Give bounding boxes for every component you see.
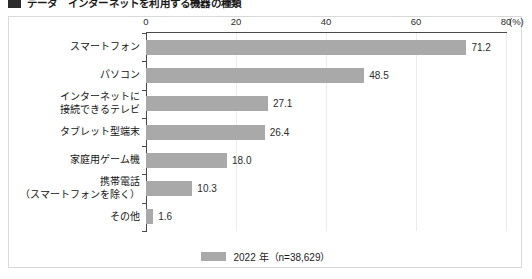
x-axis-tick-labels: 020406080(%) bbox=[0, 0, 532, 16]
category-label-6: その他 bbox=[0, 211, 140, 224]
x-tick-label-0: 0 bbox=[143, 16, 148, 27]
chart-legend: 2022 年（n=38,629） bbox=[0, 249, 532, 264]
category-label-line: 家庭用ゲーム機 bbox=[0, 154, 140, 167]
category-label-line: 携帯電話 bbox=[0, 176, 140, 189]
x-tick-label-60: 60 bbox=[411, 16, 422, 27]
category-label-2: インターネットに接続できるテレビ bbox=[0, 91, 140, 116]
category-label-4: 家庭用ゲーム機 bbox=[0, 154, 140, 167]
category-label-0: スマートフォン bbox=[0, 41, 140, 54]
y-axis-category-labels: スマートフォンパソコンインターネットに接続できるテレビタブレット型端末家庭用ゲー… bbox=[0, 33, 532, 231]
category-label-1: パソコン bbox=[0, 69, 140, 82]
category-label-line: （スマートフォンを除く） bbox=[0, 189, 140, 202]
category-label-line: タブレット型端末 bbox=[0, 126, 140, 139]
legend-swatch-2022 bbox=[201, 252, 226, 261]
x-tick-label-40: 40 bbox=[321, 16, 332, 27]
category-label-line: インターネットに bbox=[0, 91, 140, 104]
category-label-line: スマートフォン bbox=[0, 41, 140, 54]
category-label-3: タブレット型端末 bbox=[0, 126, 140, 139]
category-label-line: その他 bbox=[0, 211, 140, 224]
category-label-line: パソコン bbox=[0, 69, 140, 82]
legend-label-2022: 2022 年（n=38,629） bbox=[233, 249, 330, 264]
x-axis-unit-label: (%) bbox=[509, 16, 524, 27]
x-tick-label-20: 20 bbox=[231, 16, 242, 27]
category-label-line: 接続できるテレビ bbox=[0, 104, 140, 117]
category-label-5: 携帯電話（スマートフォンを除く） bbox=[0, 176, 140, 201]
y-tick-end bbox=[142, 231, 146, 232]
